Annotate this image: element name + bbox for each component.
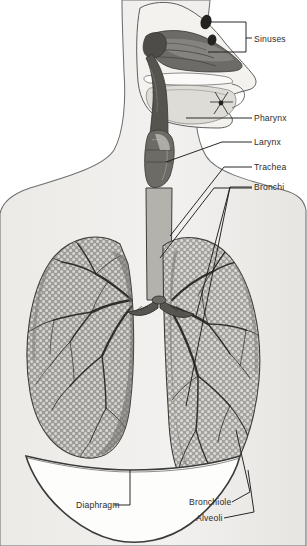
respiratory-diagram: Sinuses Pharynx Larynx Trachea Bronchi D… bbox=[0, 0, 307, 546]
label-bronchiole: Bronchiole bbox=[189, 497, 231, 507]
label-diaphragm: Diaphragm bbox=[76, 500, 120, 510]
label-pharynx: Pharynx bbox=[254, 113, 287, 123]
label-larynx: Larynx bbox=[254, 137, 281, 147]
label-trachea: Trachea bbox=[254, 162, 287, 172]
label-bronchi: Bronchi bbox=[254, 182, 284, 192]
label-alveoli: Alveoli bbox=[196, 513, 223, 523]
label-sinuses: Sinuses bbox=[254, 34, 286, 44]
anatomy-illustration: Sinuses Pharynx Larynx Trachea Bronchi D… bbox=[0, 0, 307, 546]
